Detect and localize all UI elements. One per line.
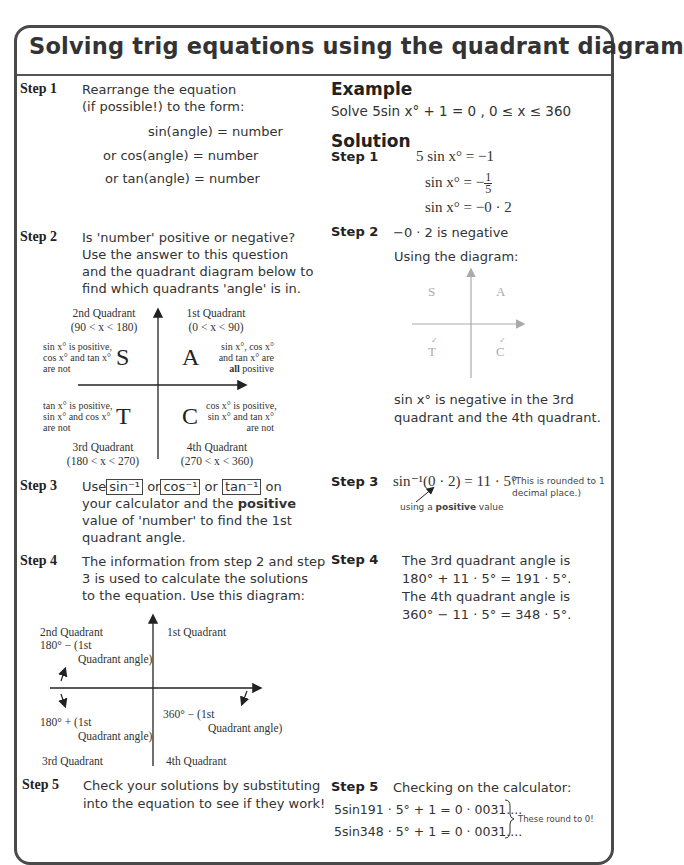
round-note: These round to 0! (518, 814, 594, 824)
brace-icon (505, 800, 514, 838)
